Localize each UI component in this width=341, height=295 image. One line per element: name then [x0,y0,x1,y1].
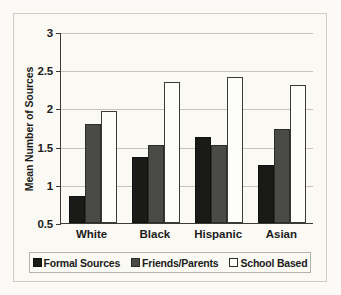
legend-item[interactable]: School Based [229,257,307,269]
legend-label: School Based [240,257,307,269]
bar [258,165,274,223]
bar [101,111,117,223]
x-axis-tick-label: White [60,228,123,240]
bar [274,129,290,223]
bar-group [124,33,187,223]
legend-item[interactable]: Friends/Parents [131,257,218,269]
y-axis-tick-label: 1.5 [38,142,53,154]
bar-group [188,33,251,223]
legend-label: Formal Sources [44,257,121,269]
y-axis-tick-label: 3 [47,27,53,39]
y-axis-tick-label: 0.5 [38,218,53,230]
bar [69,196,85,223]
legend-swatch-icon [131,258,140,267]
bar [290,85,306,223]
bar [195,137,211,223]
y-axis-tick [56,224,61,225]
chart-legend: Formal SourcesFriends/ParentsSchool Base… [29,252,311,273]
y-axis-tick-label: 1 [47,180,53,192]
plot-area: 0.511.522.53 [60,33,313,224]
y-axis-title-label: Mean Number of Sources [23,66,35,190]
legend-label: Friends/Parents [142,257,218,269]
y-axis-title: Mean Number of Sources [22,33,36,224]
legend-item[interactable]: Formal Sources [33,257,121,269]
bar-group [251,33,314,223]
bar-chart-figure: Mean Number of Sources 0.511.522.53 Form… [0,0,341,295]
x-axis-tick-label: Asian [250,228,313,240]
bar [164,82,180,223]
bar [227,77,243,223]
legend-swatch-icon [33,258,42,267]
x-axis-tick-label: Black [123,228,186,240]
bar [85,124,101,223]
x-axis-tick-label: Hispanic [187,228,250,240]
bar-group [61,33,124,223]
y-axis-tick-label: 2 [47,103,53,115]
legend-swatch-icon [229,258,238,267]
y-axis-tick-label: 2.5 [38,65,53,77]
bar [148,145,164,223]
bar [211,145,227,223]
bar [132,157,148,223]
